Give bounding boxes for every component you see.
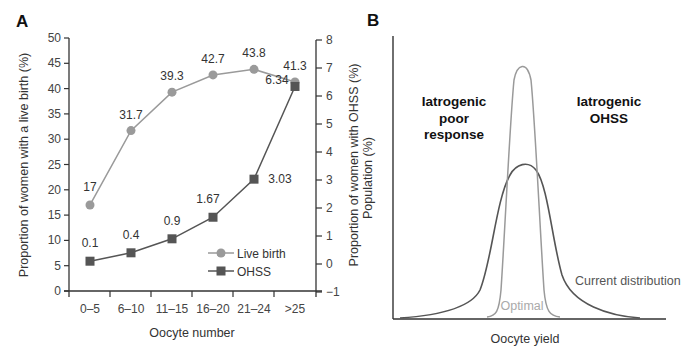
svg-text:Iatrogenic: Iatrogenic	[422, 94, 487, 109]
left-y-axis-title: Proportion of women with a live birth (%…	[17, 53, 31, 277]
left-tick-label: 20	[48, 183, 62, 197]
legend-label-live-birth: Live birth	[237, 247, 286, 261]
x-ticks: 0–56–1011–1516–2021–24>25	[80, 291, 306, 316]
live-birth-point	[209, 70, 218, 79]
ohss-value-label: 0.4	[123, 228, 140, 242]
ohss-value-label: 0.9	[164, 214, 181, 228]
circle-marker-icon	[217, 249, 226, 258]
current-distribution-curve	[400, 164, 640, 318]
x-tick-label: >25	[285, 302, 306, 316]
left-tick-label: 25	[48, 158, 62, 172]
x-tick-label: 21–24	[237, 302, 271, 316]
current-distribution-label: Current distribution	[575, 274, 681, 288]
left-y-ticks: 05101520253035404550	[48, 31, 69, 298]
x-tick-label: 0–5	[80, 302, 100, 316]
left-tick-label: 45	[48, 56, 62, 70]
ohss-point	[291, 82, 300, 91]
ohss-point	[168, 234, 177, 243]
right-tick-label: 4	[326, 145, 333, 159]
x-tick-label: 6–10	[118, 302, 145, 316]
ohss-value-label: 1.67	[196, 192, 220, 206]
ohss-value-label: 3.03	[268, 172, 292, 186]
live-birth-point	[250, 65, 259, 74]
right-tick-label: 2	[326, 201, 333, 215]
legend: Live birth OHSS	[208, 247, 286, 279]
right-tick-label: −1	[326, 285, 340, 299]
square-marker-icon	[217, 267, 226, 276]
b-y-axis-title: Population (%)	[361, 137, 375, 219]
live-birth-point	[127, 126, 136, 135]
svg-text:response: response	[424, 127, 485, 142]
left-tick-label: 10	[48, 233, 62, 247]
panel-a-label: A	[16, 12, 28, 31]
live-birth-point	[86, 200, 95, 209]
live-birth-value-label: 17	[83, 180, 97, 194]
ohss-point	[209, 213, 218, 222]
ohss-value-label: 0.1	[82, 236, 99, 250]
legend-label-ohss: OHSS	[237, 265, 271, 279]
svg-text:Iatrogenic: Iatrogenic	[577, 94, 642, 109]
right-tick-label: 8	[326, 33, 333, 47]
live-birth-value-label: 39.3	[160, 69, 184, 83]
left-tick-label: 30	[48, 132, 62, 146]
left-tick-label: 15	[48, 208, 62, 222]
x-tick-label: 16–20	[196, 302, 230, 316]
ohss-point	[86, 257, 95, 266]
poor-response-label: Iatrogenic poor response	[422, 94, 487, 142]
left-tick-label: 50	[48, 31, 62, 45]
ohss-point	[127, 248, 136, 257]
x-axis-title: Oocyte number	[149, 326, 234, 340]
live-birth-value-label: 41.3	[283, 59, 307, 73]
optimal-label: Optimal	[500, 299, 543, 313]
right-tick-label: 6	[326, 89, 333, 103]
right-y-ticks: −1012345678	[316, 33, 340, 299]
left-tick-label: 5	[54, 259, 61, 273]
left-tick-label: 35	[48, 107, 62, 121]
right-tick-label: 7	[326, 61, 333, 75]
live-birth-point	[168, 88, 177, 97]
x-tick-label: 11–15	[156, 302, 189, 316]
right-tick-label: 0	[326, 257, 333, 271]
svg-text:poor: poor	[439, 111, 470, 126]
legend-item-live-birth: Live birth	[208, 247, 286, 261]
ohss-value-label: 6.34	[265, 73, 289, 87]
svg-text:OHSS: OHSS	[590, 111, 628, 126]
b-x-axis-title: Oocyte yield	[491, 332, 560, 346]
ohss-region-label: Iatrogenic OHSS	[577, 94, 642, 126]
left-tick-label: 40	[48, 82, 62, 96]
right-tick-label: 5	[326, 117, 333, 131]
legend-item-ohss: OHSS	[208, 265, 271, 279]
live-birth-value-label: 31.7	[119, 108, 143, 122]
panel-b-label: B	[367, 11, 379, 30]
right-tick-label: 3	[326, 173, 333, 187]
left-tick-label: 0	[54, 284, 61, 298]
ohss-series: 0.10.40.91.673.036.34	[82, 73, 300, 265]
right-tick-label: 1	[326, 229, 333, 243]
ohss-point	[250, 175, 259, 184]
live-birth-value-label: 42.7	[201, 52, 225, 66]
live-birth-value-label: 43.8	[242, 46, 266, 60]
optimal-curve	[487, 66, 560, 317]
figure: A 05101520253035404550 −1012345678 0–56–…	[0, 0, 698, 362]
right-y-axis-title: Proportion of women with OHSS (%)	[347, 64, 361, 267]
